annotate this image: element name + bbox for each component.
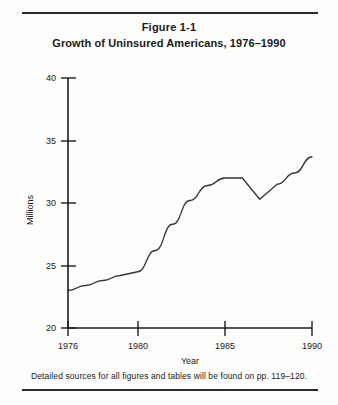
data-series-line xyxy=(68,157,312,291)
chart-plot-area: 40 35 30 25 20 Millions 1976 1980 1985 1… xyxy=(0,0,338,405)
x-axis xyxy=(68,321,312,336)
figure-card: Figure 1-1 Growth of Uninsured Americans… xyxy=(0,0,338,405)
x-tick-label-1980: 1980 xyxy=(128,341,148,351)
y-tick-label-35: 35 xyxy=(46,136,56,146)
bottom-rule xyxy=(22,389,318,391)
y-tick-label-30: 30 xyxy=(46,198,56,208)
line-chart-svg: 40 35 30 25 20 Millions 1976 1980 1985 1… xyxy=(0,0,338,405)
y-tick-label-20: 20 xyxy=(46,323,56,333)
x-axis-tick-labels: 1976 1980 1985 1990 xyxy=(58,341,322,351)
y-tick-label-25: 25 xyxy=(46,261,56,271)
x-axis-title: Year xyxy=(181,356,199,366)
x-tick-label-1990: 1990 xyxy=(302,341,322,351)
y-axis-tick-labels: 40 35 30 25 20 xyxy=(46,73,56,333)
footnote-text: Detailed sources for all figures and tab… xyxy=(0,370,338,382)
y-tick-label-40: 40 xyxy=(46,73,56,83)
x-tick-label-1976: 1976 xyxy=(58,341,78,351)
x-tick-label-1985: 1985 xyxy=(215,341,235,351)
y-axis-title: Millions xyxy=(25,195,35,226)
